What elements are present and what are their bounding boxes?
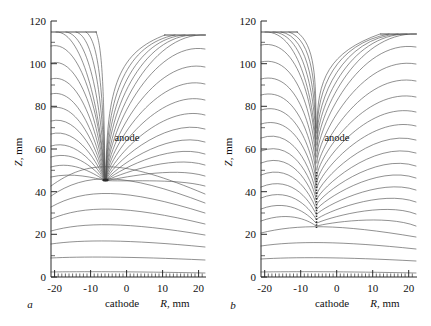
panel-a-x-axis-title: R, mm <box>159 297 190 309</box>
panel-b-xtick-10: 10 <box>367 282 379 294</box>
panel-b-ytick-20: 20 <box>245 228 257 240</box>
panel-a-xtick-neg10: -10 <box>83 282 98 294</box>
panel-b-ytick-100: 100 <box>240 58 257 70</box>
panel-b-plot-area <box>261 21 417 277</box>
panel-b-field-lines <box>261 32 416 273</box>
panel-b-ytick-0: 0 <box>251 271 257 283</box>
panel-a-xtick-20: 20 <box>193 282 205 294</box>
panel-b-y-axis-title: Z, mm <box>222 137 234 166</box>
panel-a-anode-label: anode <box>114 132 139 143</box>
panel-a-ytick-80: 80 <box>35 100 47 112</box>
panel-b-xtick-neg20: -20 <box>257 282 272 294</box>
panel-a-field-lines <box>51 32 205 273</box>
figure-root: 0 20 40 60 80 100 120 -20 -10 0 10 20 Z,… <box>0 0 431 326</box>
panel-b-anode-label: anode <box>324 132 349 143</box>
panel-a-axes <box>51 21 206 277</box>
panel-b-x-axis-title-unit: , mm <box>377 297 400 309</box>
panel-a-ytick-20: 20 <box>35 228 47 240</box>
panel-b-cathode-label: cathode <box>315 297 349 309</box>
panel-a-plot-area <box>51 21 206 277</box>
panel-a-xtick-neg20: -20 <box>47 282 62 294</box>
panel-a-ytick-0: 0 <box>41 271 47 283</box>
panel-b-ytick-40: 40 <box>245 186 257 198</box>
panel-a-y-axis-title-unit: , mm <box>12 137 24 160</box>
panel-b-electrodes <box>261 32 417 228</box>
panel-a-xtick-10: 10 <box>157 282 169 294</box>
panel-a-letter: a <box>27 298 33 310</box>
panel-b-xtick-neg10: -10 <box>293 282 308 294</box>
panel-a-y-axis-title: Z, mm <box>12 137 24 166</box>
panel-a-cathode-label: cathode <box>105 297 139 309</box>
panel-a-ytick-100: 100 <box>30 58 47 70</box>
panel-b-axes <box>261 21 417 277</box>
panel-b-letter: b <box>230 299 236 311</box>
panel-b-xtick-20: 20 <box>403 282 415 294</box>
panel-b-xtick-0: 0 <box>334 282 340 294</box>
panel-b-ytick-120: 120 <box>240 15 257 27</box>
panel-b-ytick-60: 60 <box>245 143 257 155</box>
panel-b: 0 20 40 60 80 100 120 -20 -10 0 10 20 Z,… <box>215 0 431 326</box>
panel-a-xtick-0: 0 <box>124 282 130 294</box>
panel-a-ytick-60: 60 <box>35 143 47 155</box>
panel-a-ytick-120: 120 <box>30 15 47 27</box>
panel-a-x-axis-title-unit: , mm <box>167 297 190 309</box>
panel-b-x-axis-title: R, mm <box>369 297 400 309</box>
panel-b-ytick-80: 80 <box>245 100 257 112</box>
panel-b-y-axis-title-unit: , mm <box>222 137 234 160</box>
panel-a: 0 20 40 60 80 100 120 -20 -10 0 10 20 Z,… <box>0 0 216 326</box>
panel-a-ytick-40: 40 <box>35 186 47 198</box>
